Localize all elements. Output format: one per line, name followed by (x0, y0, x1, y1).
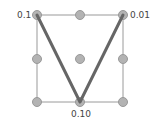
grid-diagram: 0.1 0.01 0.10 (0, 0, 157, 134)
node-bottom-left (33, 98, 42, 107)
node-center (76, 55, 85, 64)
node-middle-right (119, 55, 128, 64)
node-bottom-right (119, 98, 128, 107)
label-top-left: 0.1 (17, 10, 31, 20)
grid-nodes (33, 11, 128, 107)
label-top-right: 0.01 (130, 10, 150, 20)
label-bottom-center: 0.10 (71, 109, 91, 119)
node-top-center (76, 11, 85, 20)
node-middle-left (33, 55, 42, 64)
